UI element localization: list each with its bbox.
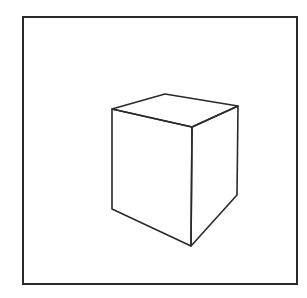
cube-left-face: [112, 109, 192, 246]
square-frame: [23, 17, 297, 284]
cube-right-face: [191, 106, 238, 246]
cube-diagram: [0, 0, 307, 298]
cube-top-face: [112, 94, 238, 127]
